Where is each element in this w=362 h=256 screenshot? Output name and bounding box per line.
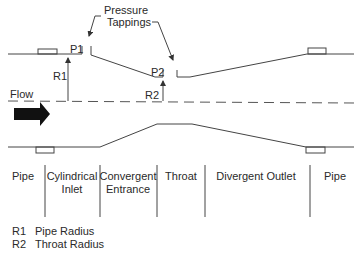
centerline [8, 101, 354, 103]
top-divergent-wall [177, 54, 354, 77]
bottom-flange-left [36, 147, 54, 153]
r2-label: R2 [145, 89, 159, 101]
callout-line1: Pressure [104, 4, 148, 16]
top-flange-right [308, 48, 326, 54]
legend-key-r1: R1 [12, 225, 26, 237]
section-convergent-entrance-line2: Entrance [106, 183, 150, 195]
callout-line2: Tappings [107, 16, 152, 28]
legend-text-r1: Pipe Radius [35, 225, 95, 237]
bottom-flange-right [306, 147, 325, 153]
section-convergent-entrance-line1: Convergent [100, 170, 157, 182]
section-divergent-outlet: Divergent Outlet [216, 170, 295, 182]
p2-label: P2 [151, 66, 164, 78]
top-flange-left [38, 49, 57, 54]
legend-text-r2: Throat Radius [35, 238, 105, 250]
section-pipe-left: Pipe [12, 170, 34, 182]
section-throat: Throat [165, 170, 197, 182]
callout-arrow-p2 [152, 22, 173, 60]
section-cylindrical-inlet-line1: Cylindrical [47, 170, 98, 182]
bottom-wall [8, 124, 354, 147]
flow-arrow-icon [14, 102, 50, 126]
venturi-meter-diagram: P1 P2 Pressure Tappings R1 R2 Flow Pipe … [0, 0, 362, 256]
r1-label: R1 [53, 70, 67, 82]
callout-arrow-p1 [89, 16, 101, 36]
section-pipe-right: Pipe [324, 170, 346, 182]
legend-key-r2: R2 [12, 238, 26, 250]
section-cylindrical-inlet-line2: Inlet [62, 183, 83, 195]
p1-label: P1 [70, 43, 83, 55]
flow-label: Flow [10, 88, 33, 100]
